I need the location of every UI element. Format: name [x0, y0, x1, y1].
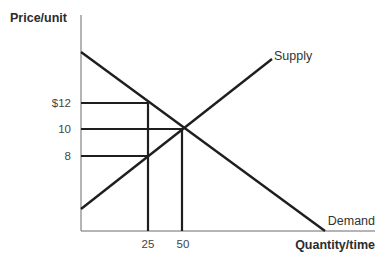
x-tick-25: 25 [142, 238, 155, 250]
supply-curve [81, 59, 272, 209]
supply-label: Supply [274, 49, 313, 63]
y-tick-8: 8 [65, 150, 71, 162]
y-axis-title: Price/unit [10, 11, 68, 25]
demand-label: Demand [328, 214, 375, 228]
y-tick-12: $12 [52, 97, 71, 109]
x-tick-50: 50 [177, 238, 190, 250]
demand-curve [81, 52, 325, 231]
y-tick-10: 10 [58, 123, 71, 135]
x-axis-title: Quantity/time [295, 238, 375, 252]
supply-demand-chart: Price/unit Quantity/time Supply Demand $… [0, 0, 392, 268]
